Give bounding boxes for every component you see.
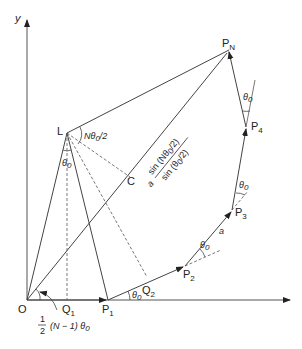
point-Q2-label: Q2 (142, 284, 156, 299)
origin-angle-frac-den: 2 (40, 326, 45, 336)
phasor-P4PN (229, 52, 246, 127)
origin-angle-pointer (40, 292, 57, 310)
dashed-L-Q2 (67, 133, 147, 277)
angle-arc-L-top (78, 127, 82, 144)
angle-label-P3: θ0 (239, 180, 249, 192)
point-P2-label: P2 (183, 268, 195, 283)
angle-arc-P1 (128, 291, 130, 300)
phasor-P2P3 (185, 212, 231, 266)
formula-prefix: a (145, 179, 156, 189)
phasor-P3P4 (232, 129, 246, 210)
origin-angle-frac-num: 1 (40, 314, 45, 324)
point-C-label: C (127, 175, 135, 187)
y-axis-label: y (14, 12, 22, 24)
origin-label: O (18, 303, 27, 315)
angle-label-P4: θ0 (243, 92, 253, 104)
phasor-diagram: y O PN P4 P3 P2 P1 Q1 Q2 L C Nθ0/2 θ0 θ0… (0, 0, 302, 349)
point-Q1-label: Q1 (62, 303, 76, 318)
point-L-label: L (57, 125, 63, 137)
point-P1-label: P1 (102, 303, 114, 318)
angle-arc-P3 (236, 193, 245, 195)
origin-angle-rest: (N − 1) θ0 (50, 321, 90, 333)
point-P3-label: P3 (235, 206, 247, 221)
angle-label-L-top: Nθ0/2 (84, 131, 107, 143)
resultant-formula: a sin (Nθ0/2) sin (θ0/2) (139, 130, 198, 195)
point-P4-label: P4 (251, 120, 263, 135)
angle-arc-origin (36, 289, 40, 300)
line-L-PN (67, 50, 229, 133)
line-L-P1 (67, 133, 108, 300)
point-PN-label: PN (222, 37, 235, 52)
segment-label-a: a (219, 226, 224, 236)
